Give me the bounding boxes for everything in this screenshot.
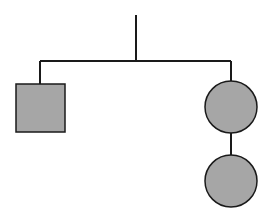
pedigree-nodes [16,81,257,207]
pedigree-diagram [0,0,274,222]
female-descendant-circle-node [205,155,257,207]
male-child-square-node [16,84,65,132]
connector-lines [40,15,231,155]
female-child-circle-node [205,81,257,133]
